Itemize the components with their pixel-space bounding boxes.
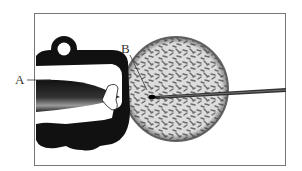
microinjection-diagram: A B [0, 0, 302, 171]
label-a: A [15, 73, 24, 86]
holding-pipette [36, 36, 130, 151]
label-b: B [121, 42, 130, 55]
nucleus [149, 95, 156, 99]
egg-cell [124, 37, 228, 141]
